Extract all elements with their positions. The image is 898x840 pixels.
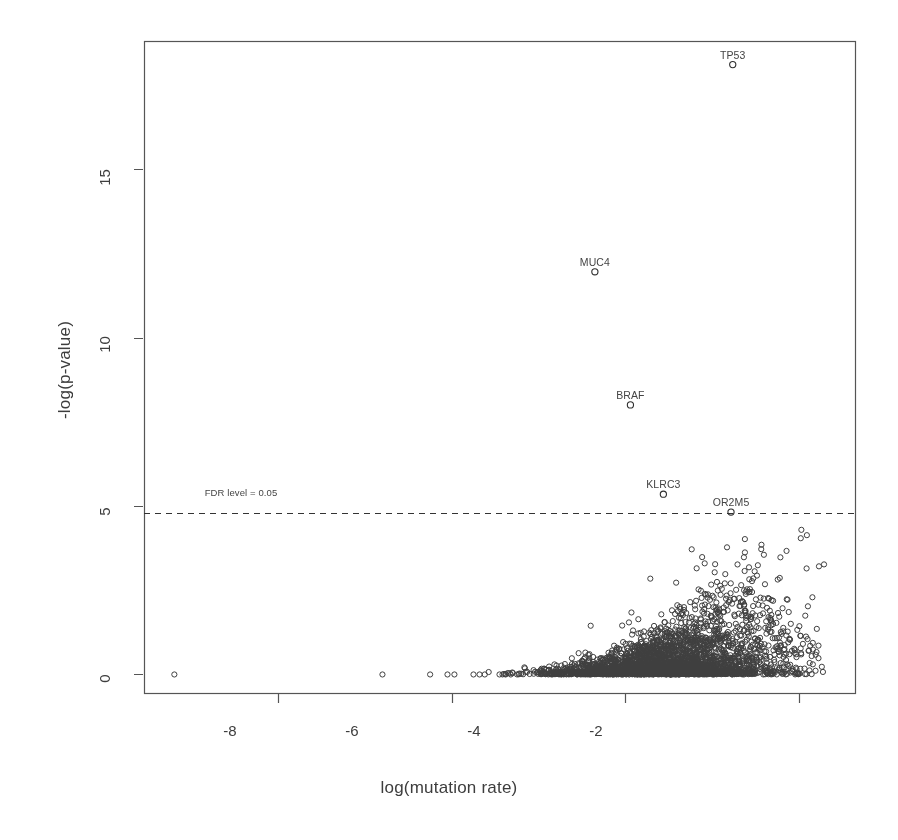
point-label-braf: BRAF [616, 389, 644, 401]
point-label-tp53: TP53 [720, 49, 746, 61]
point-label-or2m5: OR2M5 [713, 496, 750, 508]
y-tick-label: 15 [96, 169, 113, 186]
fdr-threshold-label: FDR level = 0.05 [205, 487, 278, 498]
y-tick-label: 0 [96, 674, 113, 682]
x-axis-title: log(mutation rate) [0, 778, 898, 798]
x-tick-label: -2 [589, 722, 602, 739]
y-axis-title: -log(p-value) [55, 250, 75, 490]
x-tick-label: -8 [223, 722, 236, 739]
plot-area-canvas [0, 0, 898, 840]
y-tick-label: 10 [96, 336, 113, 353]
y-tick-label: 5 [96, 507, 113, 515]
point-label-klrc3: KLRC3 [646, 478, 680, 490]
scatter-plot-figure: -8 -6 -4 -2 0 5 10 15 log(mutation rate)… [0, 0, 898, 840]
x-tick-label: -4 [467, 722, 480, 739]
point-label-muc4: MUC4 [580, 256, 610, 268]
x-tick-label: -6 [345, 722, 358, 739]
